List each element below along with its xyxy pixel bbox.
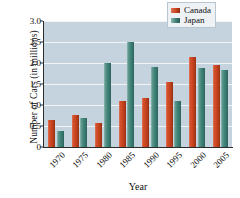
- x-axis-label: Year: [44, 181, 232, 192]
- bar-group: [213, 21, 229, 147]
- y-axis-line: [43, 21, 44, 148]
- bar-japan-1990: [151, 67, 158, 147]
- bar-canada-2000: [189, 57, 196, 147]
- x-tick-label: 1970: [41, 150, 66, 175]
- legend-item: Canada: [171, 5, 211, 15]
- legend: Canada Japan: [167, 2, 216, 28]
- bar-group: [119, 21, 135, 147]
- x-tick-label: 1975: [65, 150, 90, 175]
- bar-canada-1970: [48, 120, 55, 147]
- plot-area: [44, 21, 232, 147]
- y-tick-label: 2.5: [1, 37, 41, 47]
- bar-canada-1985: [119, 101, 126, 147]
- y-tick-label: 1.0: [1, 100, 41, 110]
- bar-group: [142, 21, 158, 147]
- x-tick-label: 1995: [159, 150, 184, 175]
- x-tick-label: 2005: [206, 150, 231, 175]
- x-tick-label: 1985: [112, 150, 137, 175]
- x-axis-line: [43, 147, 233, 148]
- y-tick-label: 1.5: [1, 79, 41, 89]
- y-tick-mark: [40, 105, 43, 106]
- bar-canada-1980: [95, 123, 102, 147]
- y-tick-mark: [40, 21, 43, 22]
- bar-japan-1985: [127, 42, 134, 147]
- y-tick-label: 3.0: [1, 16, 41, 26]
- legend-label-canada: Canada: [184, 5, 211, 15]
- bar-group: [189, 21, 205, 147]
- legend-swatch-canada-icon: [171, 8, 180, 13]
- bar-group: [48, 21, 64, 147]
- bar-japan-2005: [221, 70, 228, 147]
- y-tick-mark: [40, 63, 43, 64]
- x-tick-label: 1980: [88, 150, 113, 175]
- bar-group: [166, 21, 182, 147]
- bar-canada-2005: [213, 65, 220, 147]
- bar-canada-1990: [142, 98, 149, 147]
- bar-japan-1975: [80, 118, 87, 147]
- legend-label-japan: Japan: [184, 15, 205, 25]
- bar-canada-1995: [166, 82, 173, 147]
- bar-group: [72, 21, 88, 147]
- y-tick-label: 0: [1, 142, 41, 152]
- y-tick-mark: [40, 147, 43, 148]
- y-tick-mark: [40, 126, 43, 127]
- bar-chart-figure: Number of Cars (in millions) 00.51.01.52…: [0, 0, 240, 198]
- bar-japan-1995: [174, 101, 181, 147]
- bar-group: [95, 21, 111, 147]
- legend-swatch-japan-icon: [171, 18, 180, 23]
- y-tick-mark: [40, 42, 43, 43]
- bar-japan-1970: [57, 131, 64, 147]
- bar-japan-2000: [198, 68, 205, 147]
- y-tick-label: 0.5: [1, 121, 41, 131]
- bar-canada-1975: [72, 115, 79, 147]
- y-tick-label: 2.0: [1, 58, 41, 68]
- y-tick-mark: [40, 84, 43, 85]
- x-tick-label: 1990: [135, 150, 160, 175]
- legend-item: Japan: [171, 15, 211, 25]
- x-tick-label: 2000: [182, 150, 207, 175]
- bar-japan-1980: [104, 63, 111, 147]
